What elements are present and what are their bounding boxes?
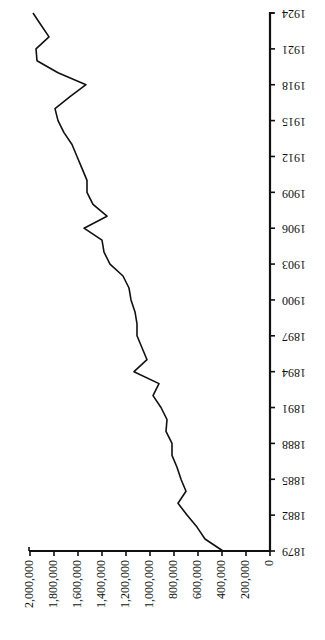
line-chart: 0200,000400,000600,000800,0001,000,0001,… [0, 0, 325, 640]
value-axis: 0200,000400,000600,000800,0001,000,0001,… [22, 547, 276, 608]
value-tick-label: 600,000 [190, 560, 204, 599]
year-tick-label: 1900 [282, 294, 306, 308]
value-tick-label: 200,000 [238, 560, 252, 599]
year-axis: 1879188218851888189118941897190019031906… [270, 7, 306, 559]
year-tick-label: 1891 [282, 402, 306, 416]
year-tick-label: 1903 [282, 258, 306, 272]
year-tick-label: 1912 [282, 151, 306, 165]
value-tick-label: 1,200,000 [118, 560, 132, 608]
value-tick-label: 1,400,000 [94, 560, 108, 608]
year-tick-label: 1894 [282, 366, 306, 380]
year-tick-label: 1888 [282, 438, 306, 452]
year-tick-label: 1924 [282, 7, 306, 21]
year-tick-label: 1918 [282, 79, 306, 93]
value-tick-label: 2,000,000 [22, 560, 36, 608]
series-line [33, 13, 223, 551]
value-tick-label: 1,000,000 [142, 560, 156, 608]
year-tick-label: 1879 [282, 545, 306, 559]
value-tick-label: 1,800,000 [46, 560, 60, 608]
year-tick-label: 1882 [282, 509, 306, 523]
value-tick-label: 1,600,000 [70, 560, 84, 608]
year-tick-label: 1909 [282, 187, 306, 201]
year-tick-label: 1921 [282, 43, 306, 57]
value-tick-label: 0 [262, 560, 276, 566]
value-tick-label: 400,000 [214, 560, 228, 599]
year-tick-label: 1885 [282, 474, 306, 488]
year-tick-label: 1897 [282, 330, 306, 344]
value-tick-label: 800,000 [166, 560, 180, 599]
year-tick-label: 1915 [282, 115, 306, 129]
year-tick-label: 1906 [282, 222, 306, 236]
